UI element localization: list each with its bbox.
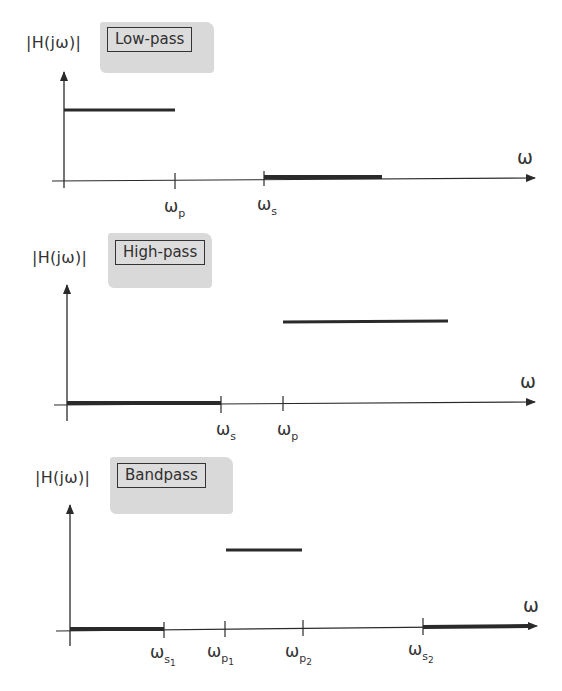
- highpass-ylabel: |H(jω)|: [32, 248, 87, 267]
- highpass-label-ws: ωs: [216, 419, 236, 443]
- bandpass-plot: [56, 505, 537, 646]
- filter-diagram-canvas: [0, 0, 562, 691]
- lowpass-plot: [52, 72, 535, 189]
- highpass-plot: [54, 285, 535, 421]
- lowpass-ylabel: |H(jω)|: [26, 33, 81, 52]
- lowpass-tag-shade: Low-pass: [100, 22, 214, 73]
- lowpass-tag: Low-pass: [107, 27, 192, 52]
- bandpass-label-wp2: ωp2: [285, 641, 312, 667]
- bandpass-label-ws2: ωs2: [408, 639, 434, 665]
- lowpass-label-ws: ωs: [257, 194, 277, 218]
- highpass-x-label: ω: [520, 370, 536, 392]
- bandpass-tag: Bandpass: [117, 463, 206, 488]
- bandpass-upper-stopband: [423, 626, 528, 627]
- lowpass-x-label: ω: [517, 146, 533, 168]
- highpass-passband: [283, 321, 448, 322]
- bandpass-label-wp1: ωp1: [207, 641, 234, 667]
- highpass-tag: High-pass: [115, 240, 205, 265]
- highpass-tag-shade: High-pass: [108, 233, 212, 288]
- highpass-label-wp: ωp: [277, 419, 298, 443]
- bandpass-ylabel: |H(jω)|: [35, 468, 90, 487]
- bandpass-label-ws1: ωs1: [150, 642, 176, 668]
- lowpass-label-wp: ωp: [164, 196, 185, 220]
- bandpass-tag-shade: Bandpass: [110, 457, 233, 514]
- bandpass-x-label: ω: [523, 594, 539, 616]
